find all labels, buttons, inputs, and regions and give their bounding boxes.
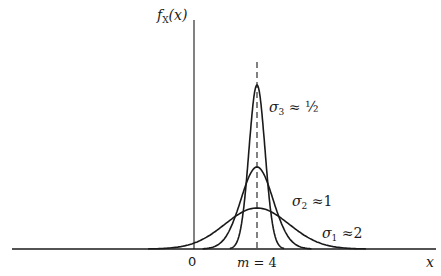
label-sigma-1: σ1 ≈2 — [322, 226, 362, 240]
x-axis-label: x — [426, 255, 434, 269]
sigma-value: ≈1 — [307, 193, 332, 209]
sigma-sub: 1 — [332, 233, 338, 243]
y-label-sub: X — [162, 15, 168, 25]
mean-eq: = 4 — [249, 255, 276, 270]
y-label-arg: (x) — [169, 7, 188, 23]
normal-distribution-diagram: fX(x) x 0 m = 4 σ3 ≈ ½ σ2 ≈1 σ1 ≈2 — [0, 0, 441, 276]
mean-var: m — [237, 255, 249, 270]
sigma-symbol: σ — [269, 99, 279, 115]
sigma-sub: 3 — [279, 107, 285, 117]
y-axis-label: fX(x) — [157, 8, 187, 22]
tick-zero: 0 — [188, 255, 196, 268]
sigma-value: ≈2 — [337, 225, 362, 241]
label-sigma-2: σ2 ≈1 — [292, 194, 332, 208]
sigma-symbol: σ — [292, 193, 302, 209]
plot-area — [0, 0, 441, 276]
sigma-sub: 2 — [302, 201, 308, 211]
sigma-symbol: σ — [322, 225, 332, 241]
sigma-value: ≈ ½ — [284, 99, 318, 115]
tick-mean: m = 4 — [237, 256, 277, 269]
label-sigma-3: σ3 ≈ ½ — [269, 100, 319, 114]
